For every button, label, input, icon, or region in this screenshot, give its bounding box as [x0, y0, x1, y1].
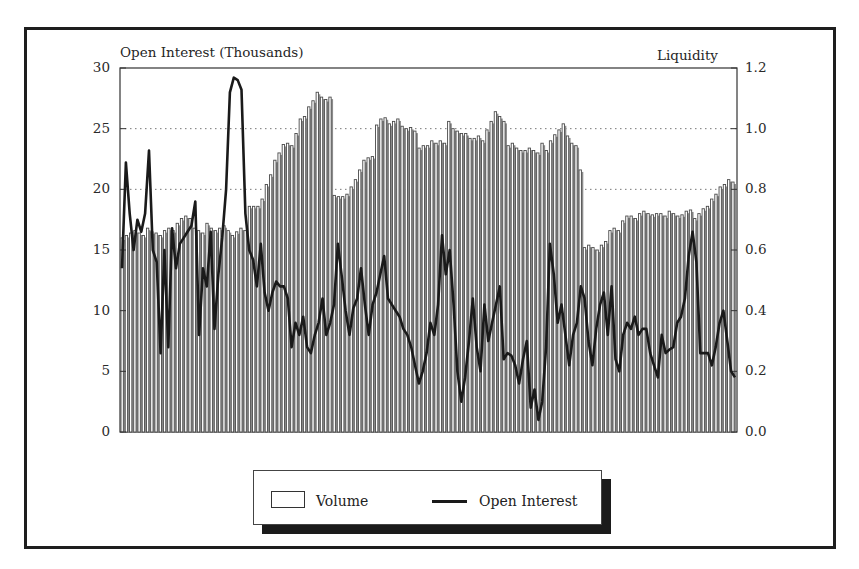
volume-bar [660, 214, 662, 432]
volume-bar [236, 232, 238, 432]
left-tick-label: 30 [70, 59, 110, 75]
left-tick-label: 15 [70, 241, 110, 257]
right-tick-label: 1.2 [745, 59, 785, 75]
volume-bar [409, 127, 411, 432]
volume-bar [375, 125, 377, 432]
volume-bar [180, 218, 182, 432]
volume-bar [719, 187, 721, 432]
volume-bar [520, 151, 522, 432]
volume-bar [142, 235, 144, 432]
right-tick-label: 0.4 [745, 302, 785, 318]
volume-bar [329, 97, 331, 432]
volume-bar [558, 130, 560, 432]
volume-bar [549, 141, 551, 432]
right-tick-label: 0.8 [745, 180, 785, 196]
volume-bar [711, 199, 713, 432]
volume-bar [359, 170, 361, 432]
volume-bar [125, 235, 127, 432]
volume-bar [185, 216, 187, 432]
left-tick-label: 20 [70, 180, 110, 196]
volume-bar [486, 130, 488, 432]
volume-bar [723, 184, 725, 432]
right-tick-label: 0.6 [745, 241, 785, 257]
volume-bar [482, 141, 484, 432]
volume-bar [672, 214, 674, 432]
volume-bar [490, 121, 492, 432]
volume-bar [286, 143, 288, 432]
volume-bar [706, 206, 708, 432]
volume-bar [388, 124, 390, 432]
volume-bar [647, 214, 649, 432]
volume-bar [465, 134, 467, 432]
volume-bar [715, 194, 717, 432]
volume-bar [469, 138, 471, 432]
volume-bar [320, 97, 322, 432]
volume-bar [244, 231, 246, 432]
volume-bar [448, 121, 450, 432]
volume-bar [342, 197, 344, 432]
right-tick-label: 1.0 [745, 120, 785, 136]
left-tick-label: 10 [70, 302, 110, 318]
volume-bar [511, 143, 513, 432]
volume-bar [337, 197, 339, 432]
volume-bar [252, 206, 254, 432]
volume-bar [575, 146, 577, 432]
volume-bar [562, 124, 564, 432]
volume-swatch-icon [271, 491, 305, 508]
volume-bar [308, 107, 310, 432]
volume-bar [537, 153, 539, 432]
volume-bar [664, 216, 666, 432]
volume-bar [295, 134, 297, 432]
volume-bar [515, 148, 517, 432]
right-axis-title: Liquidity [657, 47, 718, 63]
volume-bar [617, 231, 619, 432]
legend: Volume Open Interest [253, 470, 602, 525]
volume-bar [371, 157, 373, 432]
left-axis-title: Open Interest (Thousands) [120, 44, 304, 60]
volume-bar [325, 100, 327, 432]
volume-bar [202, 233, 204, 432]
volume-bar [473, 138, 475, 432]
volume-bar [507, 146, 509, 432]
volume-bar [414, 131, 416, 432]
volume-bar [732, 182, 734, 432]
volume-bar [655, 214, 657, 432]
volume-bar [392, 121, 394, 432]
volume-bar [605, 242, 607, 432]
volume-bar [702, 209, 704, 432]
open-interest-swatch-icon [432, 500, 467, 503]
left-tick-label: 0 [70, 423, 110, 439]
volume-bar [261, 199, 263, 432]
volume-bar [146, 228, 148, 432]
volume-bar [600, 245, 602, 432]
volume-bar [435, 143, 437, 432]
volume-bar [397, 119, 399, 432]
volume-bar [685, 211, 687, 432]
right-tick-label: 0.0 [745, 423, 785, 439]
volume-bar [422, 146, 424, 432]
volume-bar [651, 215, 653, 432]
volume-bar [418, 148, 420, 432]
volume-bar [274, 160, 276, 432]
volume-bar [151, 232, 153, 432]
volume-bar [566, 136, 568, 432]
volume-bar [189, 218, 191, 432]
volume-bar [193, 228, 195, 432]
volume-bar [401, 126, 403, 432]
volume-bar [278, 153, 280, 432]
legend-volume-label: Volume [316, 493, 368, 509]
volume-bar [498, 117, 500, 432]
volume-bar [134, 231, 136, 432]
volume-bar [456, 131, 458, 432]
volume-bar [303, 117, 305, 432]
volume-bar [638, 214, 640, 432]
volume-bar [223, 226, 225, 432]
volume-bar [643, 211, 645, 432]
volume-bar [138, 233, 140, 432]
volume-bar [405, 129, 407, 432]
volume-bar [312, 101, 314, 432]
volume-bar [257, 206, 259, 432]
volume-bar [621, 221, 623, 432]
volume-bar [524, 151, 526, 432]
volume-bar [240, 228, 242, 432]
